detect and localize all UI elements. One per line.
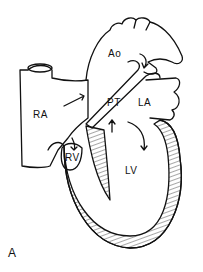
panel-label: A <box>8 246 16 260</box>
arrow-ao-curve <box>140 54 148 68</box>
label-right-ventricle: RV <box>65 152 80 163</box>
interventricular-septum <box>86 126 110 200</box>
heart-diagram <box>0 0 203 272</box>
arrow-pt-up <box>109 120 115 132</box>
label-aorta: Ao <box>108 48 121 59</box>
label-right-atrium: RA <box>33 109 48 120</box>
pulmonary-trunk <box>86 61 160 128</box>
label-left-atrium: LA <box>138 97 151 108</box>
label-left-ventricle: LV <box>125 165 138 176</box>
arrow-la-to-lv <box>128 122 147 150</box>
label-pulmonary-trunk: PT <box>107 97 121 108</box>
arrow-ra-to-ao <box>64 94 84 106</box>
aortic-arch-inner <box>134 20 150 30</box>
myocardium-hatch <box>64 120 181 248</box>
